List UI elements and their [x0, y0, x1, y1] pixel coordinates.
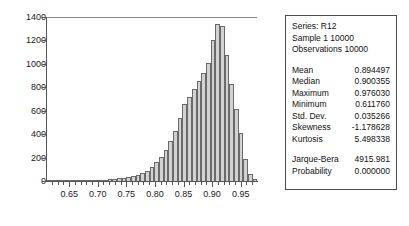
x-axis-minor-tick [166, 182, 167, 185]
statistic-row: Maximum0.976030 [292, 88, 390, 100]
y-axis-tick-label: 800 [6, 83, 46, 92]
sample-range: Sample 1 10000 [292, 33, 390, 45]
x-axis-minor-tick [178, 182, 179, 185]
descriptive-statistics-list: Mean0.894497Median0.900355Maximum0.97603… [292, 65, 390, 146]
x-axis-minor-tick [189, 182, 190, 185]
x-axis-tick-label: 0.80 [146, 189, 164, 199]
histogram-figure: 1400120010008006004002000 0.650.700.750.… [0, 0, 409, 226]
series-name: Series: R12 [292, 21, 390, 33]
stat-label: Kurtosis [292, 134, 323, 146]
x-axis-major-tick [69, 182, 70, 187]
x-axis-minor-tick [121, 182, 122, 185]
stat-value: 0.611760 [355, 99, 390, 111]
x-axis-minor-tick [235, 182, 236, 185]
statistic-row: Median0.900355 [292, 76, 390, 88]
x-axis-major-tick [241, 182, 242, 187]
x-axis-tick-label: 0.90 [203, 189, 221, 199]
x-axis-minor-tick [115, 182, 116, 185]
statistic-row: Std. Dev.0.035266 [292, 111, 390, 123]
stat-label: Skewness [292, 122, 331, 134]
x-axis-minor-tick [149, 182, 150, 185]
x-axis-minor-tick [52, 182, 53, 185]
test-statistic-row: Jarque-Bera4915.981 [292, 154, 390, 166]
x-axis-tick-label: 0.75 [118, 189, 136, 199]
y-axis-tick-label: 1400 [6, 13, 46, 22]
x-axis-minor-tick [143, 182, 144, 185]
stat-label: Std. Dev. [292, 111, 326, 123]
x-axis-tick-label: 0.70 [89, 189, 107, 199]
x-axis-major-tick [184, 182, 185, 187]
observations-count: Observations 10000 [292, 44, 390, 56]
statistics-panel: Series: R12 Sample 1 10000 Observations … [285, 15, 397, 190]
stat-value: 4915.981 [355, 154, 390, 166]
y-axis: 1400120010008006004002000 [0, 0, 46, 226]
y-axis-tick-label: 1000 [6, 59, 46, 68]
x-axis-minor-tick [201, 182, 202, 185]
histogram-bars [47, 18, 257, 181]
x-axis-tick-label: 0.85 [175, 189, 193, 199]
y-axis-tick-label: 200 [6, 153, 46, 162]
x-axis-minor-tick [81, 182, 82, 185]
x-axis-major-tick [212, 182, 213, 187]
stat-label: Median [292, 76, 320, 88]
stat-label: Probability [292, 166, 332, 178]
statistic-row: Skewness-1.178628 [292, 122, 390, 134]
x-axis-minor-tick [252, 182, 253, 185]
x-axis-minor-tick [132, 182, 133, 185]
x-axis-minor-tick [109, 182, 110, 185]
stat-label: Jarque-Bera [292, 154, 339, 166]
x-axis-major-tick [155, 182, 156, 187]
panel-spacer-mid [292, 145, 390, 154]
x-axis-minor-tick [246, 182, 247, 185]
x-axis-minor-tick [75, 182, 76, 185]
panel-spacer-top [292, 56, 390, 65]
stat-value: 5.498338 [355, 134, 390, 146]
stat-value: 0.900355 [355, 76, 390, 88]
x-axis-minor-tick [58, 182, 59, 185]
x-axis-minor-tick [138, 182, 139, 185]
stat-value: 0.894497 [355, 65, 390, 77]
y-axis-tick-label: 400 [6, 130, 46, 139]
stat-value: 0.000000 [355, 166, 390, 178]
x-axis-minor-tick [224, 182, 225, 185]
x-axis-minor-tick [206, 182, 207, 185]
x-axis-minor-tick [86, 182, 87, 185]
x-axis-tick-label: 0.95 [232, 189, 250, 199]
x-axis-minor-tick [92, 182, 93, 185]
statistic-row: Minimum0.611760 [292, 99, 390, 111]
stat-label: Mean [292, 65, 313, 77]
stat-label: Minimum [292, 99, 326, 111]
test-statistic-row: Probability0.000000 [292, 166, 390, 178]
y-axis-tick-label: 0 [6, 177, 46, 186]
stat-value: -1.178628 [352, 122, 390, 134]
y-axis-tick-label: 1200 [6, 36, 46, 45]
x-axis-minor-tick [103, 182, 104, 185]
stat-value: 0.035266 [355, 111, 390, 123]
normality-test-list: Jarque-Bera4915.981Probability0.000000 [292, 154, 390, 177]
x-axis-minor-tick [63, 182, 64, 185]
x-axis-minor-tick [161, 182, 162, 185]
y-axis-tick-label: 600 [6, 106, 46, 115]
x-axis-major-tick [126, 182, 127, 187]
x-axis-minor-tick [195, 182, 196, 185]
x-axis-major-tick [98, 182, 99, 187]
statistic-row: Mean0.894497 [292, 65, 390, 77]
stat-label: Maximum [292, 88, 329, 100]
x-axis-minor-tick [218, 182, 219, 185]
stat-value: 0.976030 [355, 88, 390, 100]
x-axis-minor-tick [172, 182, 173, 185]
histogram-chart: 1400120010008006004002000 0.650.700.750.… [0, 0, 262, 226]
statistic-row: Kurtosis5.498338 [292, 134, 390, 146]
x-axis-minor-tick [229, 182, 230, 185]
plot-area [46, 17, 257, 181]
x-axis-tick-label: 0.65 [60, 189, 78, 199]
